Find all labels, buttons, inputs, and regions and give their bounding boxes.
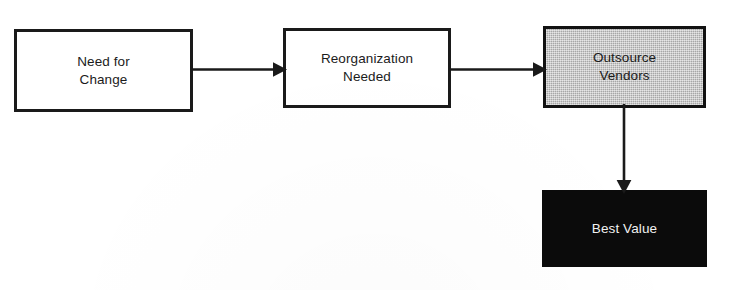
node-best-value[interactable]: Best Value [542, 190, 707, 267]
node-reorganization-needed[interactable]: Reorganization Needed [283, 28, 451, 108]
diagram-canvas: Need for Change Reorganization Needed Ou… [0, 0, 748, 290]
arrow-change-to-reorganization [191, 58, 287, 82]
arrow-outsource-to-best-value [612, 104, 636, 194]
node-reorganization-needed-label: Reorganization Needed [321, 50, 413, 86]
node-outsource-vendors-label: Outsource Vendors [593, 49, 656, 85]
arrow-reorganization-to-outsource [449, 58, 547, 82]
node-best-value-label: Best Value [592, 220, 657, 238]
node-need-for-change-label: Need for Change [77, 53, 130, 89]
node-outsource-vendors[interactable]: Outsource Vendors [543, 26, 706, 108]
node-need-for-change[interactable]: Need for Change [14, 29, 193, 112]
